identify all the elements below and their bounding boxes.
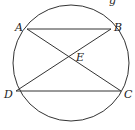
label-b: B [113, 21, 122, 34]
partial-caption-text: g [109, 0, 116, 7]
label-a: A [14, 21, 23, 34]
label-d: D [3, 88, 13, 101]
segment-bd [16, 29, 111, 91]
label-e: E [75, 51, 84, 64]
geometry-diagram: g A B C D E [0, 0, 135, 130]
circle [13, 5, 129, 121]
label-c: C [124, 88, 133, 101]
segment-ac [27, 29, 121, 91]
